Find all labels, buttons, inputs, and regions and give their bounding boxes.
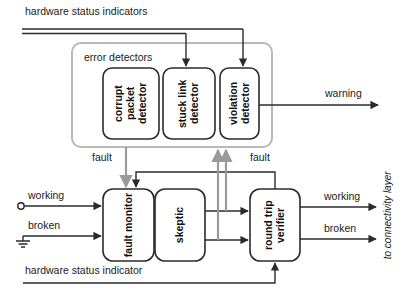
round-trip-fault-feedback-line: [136, 172, 275, 189]
hardware-status-indicator-bottom-label: hardware status indicator: [25, 265, 142, 276]
diagram-vector-layer: [0, 0, 406, 300]
working-input-terminal-circle: [18, 203, 24, 209]
violation-detector-box[interactable]: [220, 68, 259, 139]
error-detectors-group-label: error detectors: [84, 52, 152, 63]
broken-output-label: broken: [324, 223, 356, 234]
to-connectivity-layer-label: to connectivity layer: [383, 139, 394, 259]
working-output-label: working: [324, 191, 360, 202]
ground-icon: [16, 241, 30, 247]
fault-right-label: fault: [250, 152, 270, 163]
broken-input-label: broken: [28, 220, 60, 231]
working-input-label: working: [28, 190, 64, 201]
warning-label: warning: [325, 88, 362, 99]
hardware-status-indicators-top-label: hardware status indicators: [25, 6, 148, 17]
stuck-link-detector-box[interactable]: [163, 68, 215, 139]
fault-left-label: fault: [92, 152, 112, 163]
skeptic-box[interactable]: [155, 189, 205, 261]
diagram-canvas: hardware status indicators error detecto…: [0, 0, 406, 300]
corrupt-packet-detector-box[interactable]: [103, 68, 159, 139]
round-trip-verifier-box[interactable]: [250, 189, 300, 261]
fault-monitor-box[interactable]: [103, 189, 154, 261]
